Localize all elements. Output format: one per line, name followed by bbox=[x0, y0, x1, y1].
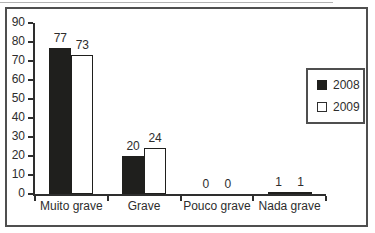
y-tick-label: 20 bbox=[3, 148, 25, 162]
y-tick-mark bbox=[28, 117, 33, 119]
bar-value-label: 20 bbox=[122, 140, 144, 153]
category-group: 2024Grave bbox=[108, 23, 181, 194]
x-category-label: Grave bbox=[108, 200, 181, 213]
y-tick-mark bbox=[28, 155, 33, 157]
y-tick-label: 90 bbox=[3, 15, 25, 29]
y-tick-mark bbox=[28, 79, 33, 81]
y-tick-mark bbox=[28, 98, 33, 100]
y-tick-mark bbox=[28, 136, 33, 138]
bar-2009-nada-grave bbox=[290, 192, 312, 194]
y-tick-label: 0 bbox=[3, 186, 25, 200]
bar-2009-grave bbox=[144, 148, 166, 194]
y-tick-label: 60 bbox=[3, 72, 25, 86]
y-tick-mark bbox=[28, 41, 33, 43]
y-tick-mark bbox=[28, 22, 33, 24]
legend-item-2009: 2009 bbox=[317, 101, 363, 114]
y-tick-label: 30 bbox=[3, 129, 25, 143]
x-category-label: Muito grave bbox=[35, 200, 108, 213]
y-tick-label: 80 bbox=[3, 34, 25, 48]
legend-swatch-2009-outlined-square bbox=[317, 102, 327, 112]
y-tick-label: 70 bbox=[3, 53, 25, 67]
bar-2008-grave bbox=[122, 156, 144, 194]
bar-value-label: 0 bbox=[217, 178, 239, 191]
legend-swatch-2008-filled-square bbox=[317, 80, 327, 90]
bar-2009-muito-grave bbox=[71, 55, 93, 194]
figure-bar-chart: 01020304050607080907773Muito grave2024Gr… bbox=[0, 0, 375, 233]
page-rule-line bbox=[0, 2, 333, 3]
bar-value-label: 1 bbox=[268, 176, 290, 189]
legend-label-2008: 2008 bbox=[333, 79, 360, 92]
legend-label-2009: 2009 bbox=[333, 101, 360, 114]
chart-frame: 01020304050607080907773Muito grave2024Gr… bbox=[5, 7, 368, 227]
bar-value-label: 1 bbox=[290, 176, 312, 189]
y-tick-mark bbox=[28, 193, 33, 195]
x-category-label: Pouco grave bbox=[181, 200, 254, 213]
category-group: 7773Muito grave bbox=[35, 23, 108, 194]
legend: 2008 2009 bbox=[306, 68, 365, 124]
y-tick-label: 50 bbox=[3, 91, 25, 105]
bar-value-label: 0 bbox=[195, 178, 217, 191]
bar-value-label: 73 bbox=[71, 39, 93, 52]
legend-item-2008: 2008 bbox=[317, 79, 363, 92]
x-category-label: Nada grave bbox=[253, 200, 326, 213]
category-group: 00Pouco grave bbox=[181, 23, 254, 194]
bar-2008-muito-grave bbox=[49, 48, 71, 194]
y-tick-label: 40 bbox=[3, 110, 25, 124]
y-tick-mark bbox=[28, 60, 33, 62]
y-tick-mark bbox=[28, 174, 33, 176]
y-tick-label: 10 bbox=[3, 167, 25, 181]
bar-2008-nada-grave bbox=[268, 192, 290, 194]
plot-area: 01020304050607080907773Muito grave2024Gr… bbox=[33, 23, 326, 196]
bar-value-label: 24 bbox=[144, 132, 166, 145]
bar-value-label: 77 bbox=[49, 32, 71, 45]
